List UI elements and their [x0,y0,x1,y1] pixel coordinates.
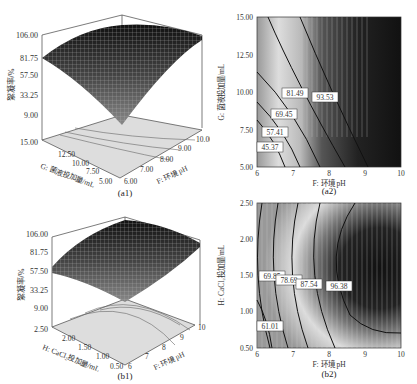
x-tick: 8 [162,343,166,352]
y-tick: 1.00 [240,307,253,316]
z-axis-label: 絮凝率/% [6,68,16,101]
y-tick: 1.00 [96,352,109,361]
y-tick: 0.50 [240,344,253,353]
z-tick: 33.25 [20,91,38,100]
y-tick: 2.00 [62,334,75,343]
caption-b2: (b2) [299,369,359,379]
z-tick: 57.50 [30,267,48,276]
x-tick: 6 [128,362,132,371]
x-tick: 7.00 [140,165,153,174]
contour-label: 87.54 [296,279,322,289]
contour-label: 93.53 [312,92,338,102]
x-tick: 10 [198,323,206,332]
contour-plot-a2: 81.49 93.53 69.45 57.41 45.37 15.00 12.5… [210,0,417,195]
caption-b1: (b1) [95,371,155,381]
y-tick: 7.50 [86,167,99,176]
x-tick: 10 [397,169,405,178]
z-tick: 81.75 [30,248,48,257]
surface-plot-a1: 106.00 81.75 57.50 33.25 9.00 15.00 絮凝率/… [0,0,210,190]
svg-text:45.37: 45.37 [262,143,279,152]
contour-label: 61.01 [257,321,283,331]
y-tick: 0.50 [110,362,123,371]
y-tick: 10.00 [236,88,253,97]
svg-text:57.41: 57.41 [267,128,284,137]
x-tick: 9 [363,350,367,359]
x-tick: 6.00 [124,177,137,186]
x-tick: 7 [291,169,295,178]
x-axis-label: F: 环境 pH [152,348,187,371]
x-tick: 7 [145,352,149,361]
contour-label: 45.37 [257,142,283,152]
contour-label: 57.41 [262,127,288,137]
y-tick: 2.50 [34,325,48,334]
x-tick: 9 [180,333,184,342]
y-tick: 2.00 [240,235,253,244]
x-tick: 6 [255,350,259,359]
z-tick: 57.50 [20,71,38,80]
x-tick: 8.00 [160,155,173,164]
y-axis-label: G: 菌液投加量/mL [216,63,226,120]
y-tick: 15.00 [236,13,253,22]
z-tick: 9.00 [34,304,48,313]
y-axis-label: H: CaCl₂投加量/mL [216,244,226,305]
z-tick: 33.25 [30,286,48,295]
contour-label: 69.45 [271,109,297,119]
y-tick: 15.00 [20,138,38,147]
y-tick: 5.00 [99,177,112,186]
x-tick: 9 [363,169,367,178]
contour-label: 81.49 [282,88,308,98]
y-tick: 12.50 [236,51,253,60]
contour-plot-b2: 69.85 78.69 87.54 96.38 61.01 2.50 2.00 … [210,195,417,384]
x-tick: 7 [291,350,295,359]
y-tick: 12.50 [58,150,75,159]
z-tick: 106.00 [16,31,38,40]
z-tick: 9.00 [24,111,38,120]
z-tick: 81.75 [20,54,38,63]
x-axis-label: F: 环境 pH [312,359,346,369]
x-tick: 10 [397,350,405,359]
svg-text:96.38: 96.38 [331,282,348,291]
y-tick: 1.50 [240,271,253,280]
x-axis-label: F: 环境 pH [155,162,190,185]
x-tick: 10.00 [196,135,210,144]
contour-b2-graphic: 69.85 78.69 87.54 96.38 61.01 2.50 2.00 … [210,195,417,384]
y-tick: 7.50 [240,126,253,135]
x-tick: 8 [327,350,331,359]
x-tick: 6 [255,169,259,178]
surface-a1-graphic: 106.00 81.75 57.50 33.25 9.00 15.00 絮凝率/… [0,0,210,190]
x-tick: 8 [327,169,331,178]
x-tick: 9.00 [178,144,191,153]
y-tick: 1.50 [78,343,91,352]
svg-text:87.54: 87.54 [301,280,318,289]
svg-text:69.45: 69.45 [276,110,293,119]
svg-text:93.53: 93.53 [317,93,334,102]
svg-text:78.69: 78.69 [281,276,298,285]
y-tick: 2.50 [240,199,253,208]
svg-text:81.49: 81.49 [287,89,304,98]
surface-b1-graphic: 106.00 81.75 57.50 33.25 9.00 2.50 絮凝率/%… [0,195,210,384]
z-axis-label: 絮凝率/% [16,268,26,301]
y-tick: 5.00 [240,163,253,172]
surface-plot-b1: 106.00 81.75 57.50 33.25 9.00 2.50 絮凝率/%… [0,195,210,384]
z-tick: 106.00 [26,230,48,239]
contour-label: 96.38 [326,281,352,291]
contour-a2-graphic: 81.49 93.53 69.45 57.41 45.37 15.00 12.5… [210,0,417,195]
svg-text:61.01: 61.01 [262,322,279,331]
